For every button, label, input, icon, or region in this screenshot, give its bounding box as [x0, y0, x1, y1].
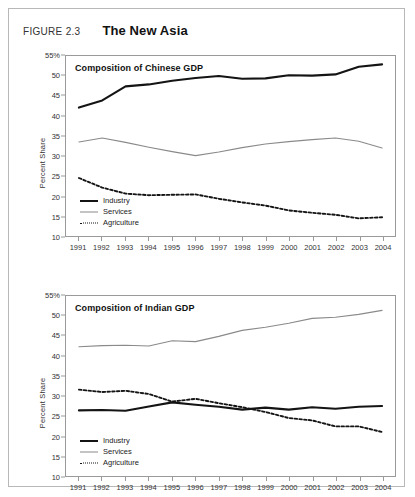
y-tick-mark — [61, 156, 65, 157]
series-line-services — [79, 310, 382, 346]
legend-item-services: Services — [80, 446, 139, 457]
y-tick-mark — [61, 295, 65, 296]
y-tick-mark — [61, 456, 65, 457]
legend-label-services: Services — [103, 208, 132, 216]
x-tick-mark — [172, 477, 173, 481]
x-tick-label: 1991 — [70, 243, 87, 252]
x-tick-mark — [125, 477, 126, 481]
x-tick-mark — [336, 477, 337, 481]
x-tick-mark — [148, 477, 149, 481]
y-tick-label: 25 — [52, 412, 60, 421]
x-tick-label: 1994 — [140, 243, 157, 252]
y-tick-label: 20 — [52, 432, 60, 441]
x-tick-mark — [219, 477, 220, 481]
x-tick-label: 1991 — [70, 483, 87, 492]
y-tick-mark — [61, 355, 65, 356]
legend-swatch-industry — [80, 437, 98, 445]
x-tick-label: 2003 — [351, 243, 368, 252]
x-tick-label: 2003 — [351, 483, 368, 492]
x-tick-mark — [289, 477, 290, 481]
y-tick-mark — [61, 176, 65, 177]
x-tick-mark — [195, 237, 196, 241]
x-tick-mark — [101, 477, 102, 481]
x-tick-mark — [101, 237, 102, 241]
figure-frame: FIGURE 2.3 The New Asia Percent Share Co… — [8, 8, 405, 487]
x-tick-label: 1998 — [234, 243, 251, 252]
x-tick-label: 2004 — [375, 483, 392, 492]
legend-china: Industry Services Agriculture — [80, 195, 139, 228]
legend-label-industry: Industry — [103, 437, 130, 445]
legend-label-services: Services — [103, 448, 132, 456]
y-tick-label: 15 — [52, 452, 60, 461]
y-tick-mark — [61, 375, 65, 376]
y-tick-label: 15 — [52, 212, 60, 221]
series-line-services — [79, 138, 382, 156]
y-tick-label: 35 — [52, 371, 60, 380]
legend-label-industry: Industry — [103, 197, 130, 205]
x-tick-mark — [242, 477, 243, 481]
legend-swatch-services — [80, 448, 98, 456]
y-tick-label: 45 — [52, 91, 60, 100]
x-tick-label: 1994 — [140, 483, 157, 492]
x-tick-label: 2001 — [304, 483, 321, 492]
chart-caption-china: Composition of Chinese GDP — [75, 63, 203, 73]
y-tick-mark — [61, 95, 65, 96]
legend-swatch-agriculture — [80, 459, 98, 467]
x-tick-label: 1993 — [117, 243, 134, 252]
y-tick-label: 50 — [52, 311, 60, 320]
plot-area-china: Composition of Chinese GDP Industry Serv… — [65, 55, 396, 237]
y-tick-mark — [61, 436, 65, 437]
x-tick-label: 1997 — [210, 243, 227, 252]
legend-item-industry: Industry — [80, 435, 139, 446]
plot-wrap-china: Composition of Chinese GDP Industry Serv… — [65, 55, 396, 237]
y-tick-mark — [61, 237, 65, 238]
y-tick-label: 55% — [45, 51, 60, 60]
series-line-industry — [79, 402, 382, 410]
y-tick-label: 25 — [52, 172, 60, 181]
x-tick-label: 2004 — [375, 243, 392, 252]
x-tick-mark — [383, 477, 384, 481]
y-tick-mark — [61, 315, 65, 316]
figure-header: FIGURE 2.3 The New Asia — [23, 23, 188, 38]
chart-caption-india: Composition of Indian GDP — [75, 303, 195, 313]
x-tick-mark — [266, 237, 267, 241]
y-tick-label: 10 — [52, 233, 60, 242]
x-tick-label: 1993 — [117, 483, 134, 492]
plot-wrap-india: Composition of Indian GDP Industry Servi… — [65, 295, 396, 477]
x-tick-label: 1995 — [164, 483, 181, 492]
y-tick-mark — [61, 115, 65, 116]
legend-item-agriculture: Agriculture — [80, 457, 139, 468]
y-tick-mark — [61, 216, 65, 217]
x-tick-mark — [313, 237, 314, 241]
plot-area-india: Composition of Indian GDP Industry Servi… — [65, 295, 396, 477]
y-tick-label: 10 — [52, 473, 60, 482]
legend-label-agriculture: Agriculture — [103, 459, 139, 467]
y-tick-label: 55% — [45, 291, 60, 300]
y-tick-mark — [61, 196, 65, 197]
x-tick-mark — [336, 237, 337, 241]
y-tick-mark — [61, 75, 65, 76]
x-tick-mark — [360, 477, 361, 481]
x-tick-label: 1995 — [164, 243, 181, 252]
figure-title: The New Asia — [102, 23, 187, 38]
x-tick-label: 2000 — [281, 483, 298, 492]
x-tick-mark — [289, 237, 290, 241]
x-tick-mark — [78, 477, 79, 481]
figure-number: FIGURE 2.3 — [23, 26, 80, 37]
y-tick-mark — [61, 135, 65, 136]
x-tick-mark — [383, 237, 384, 241]
y-tick-mark — [61, 396, 65, 397]
legend-item-agriculture: Agriculture — [80, 217, 139, 228]
x-tick-mark — [148, 237, 149, 241]
x-tick-label: 1999 — [257, 243, 274, 252]
legend-item-industry: Industry — [80, 195, 139, 206]
x-tick-label: 1996 — [187, 483, 204, 492]
y-tick-mark — [61, 55, 65, 56]
y-tick-label: 40 — [52, 111, 60, 120]
y-tick-label: 20 — [52, 192, 60, 201]
x-tick-label: 1998 — [234, 483, 251, 492]
x-tick-label: 2002 — [328, 243, 345, 252]
x-tick-label: 1992 — [93, 483, 110, 492]
y-tick-label: 45 — [52, 331, 60, 340]
chart-india: Percent Share Composition of Indian GDP … — [19, 295, 396, 497]
